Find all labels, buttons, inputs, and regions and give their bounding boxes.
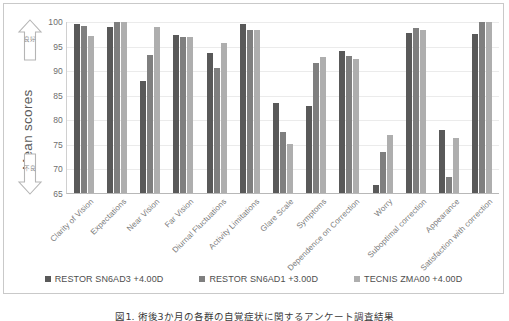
y-axis-tick-label: 75 xyxy=(53,140,63,150)
y-axis-tick-label: 65 xyxy=(53,189,63,199)
bar xyxy=(81,26,87,193)
bar-group xyxy=(300,22,333,193)
legend-swatch xyxy=(354,276,360,282)
y-axis-tick-label: 90 xyxy=(53,66,63,76)
bar-group-bars xyxy=(300,22,333,193)
figure-container: Mean scores 良好 不良 65707580859095100 Clar… xyxy=(0,0,509,321)
bar xyxy=(472,34,478,193)
x-axis-label-text: Satisfaction with correction xyxy=(419,197,495,273)
poor-arrow: 不良 xyxy=(17,152,43,196)
bar xyxy=(74,24,80,193)
bar xyxy=(339,51,345,193)
bar xyxy=(406,33,412,193)
bar xyxy=(413,28,419,193)
bar-group xyxy=(200,22,233,193)
bar xyxy=(240,24,246,193)
x-axis-label-text: Clarity of Vision xyxy=(48,197,95,244)
good-arrow: 良好 xyxy=(17,18,43,62)
figure-caption: 図1. 術後3か月の各群の自覚症状に関するアンケート調査結果 xyxy=(0,306,509,321)
x-axis-label-text: Suboptimal correction xyxy=(366,197,429,260)
x-axis-label-text: Glare Scale xyxy=(258,197,295,234)
y-axis-tick-label: 80 xyxy=(53,115,63,125)
y-axis-tick-label: 100 xyxy=(48,17,63,27)
arrow-down-icon xyxy=(17,152,43,196)
bar xyxy=(207,53,213,193)
bar-group-bars xyxy=(333,22,366,193)
bar-group-bars xyxy=(399,22,432,193)
good-arrow-label: 良好 xyxy=(17,36,43,43)
x-axis-label-text: Near Vision xyxy=(125,197,161,233)
bar xyxy=(221,43,227,193)
bar xyxy=(173,35,179,193)
legend-item[interactable]: RESTOR SN6AD3 +4.00D xyxy=(45,274,164,284)
legend-label: RESTOR SN6AD1 +3.00D xyxy=(209,274,318,284)
x-axis-label-text: Dependence on Correction xyxy=(286,197,362,273)
legend-label: RESTOR SN6AD3 +4.00D xyxy=(55,274,164,284)
bar-group-bars xyxy=(200,22,233,193)
bar xyxy=(420,30,426,193)
figure-caption-text: 図1. 術後3か月の各群の自覚症状に関するアンケート調査結果 xyxy=(115,311,393,321)
y-axis-tick-label: 95 xyxy=(53,42,63,52)
bar-group xyxy=(67,22,100,193)
bar-group xyxy=(333,22,366,193)
y-axis-tick-label: 85 xyxy=(53,91,63,101)
legend-label: TECNIS ZMA00 +4.00D xyxy=(364,274,462,284)
x-axis-labels: Clarity of VisionExpectationsNear Vision… xyxy=(66,195,499,275)
bar xyxy=(353,59,359,193)
x-axis-label-text: Worry xyxy=(373,197,395,219)
poor-arrow-label: 不良 xyxy=(17,165,43,172)
legend: RESTOR SN6AD3 +4.00DRESTOR SN6AD1 +3.00D… xyxy=(4,274,503,284)
bar xyxy=(107,27,113,193)
bar-group xyxy=(466,22,499,193)
bar xyxy=(88,36,94,193)
legend-swatch xyxy=(45,276,51,282)
legend-item[interactable]: TECNIS ZMA00 +4.00D xyxy=(354,274,462,284)
legend-item[interactable]: RESTOR SN6AD1 +3.00D xyxy=(199,274,318,284)
bar-group xyxy=(399,22,432,193)
x-axis-label-text: Far Vision xyxy=(162,197,194,229)
legend-swatch xyxy=(199,276,205,282)
bar-group-bars xyxy=(466,22,499,193)
y-axis-tick-label: 70 xyxy=(53,164,63,174)
bar-group-bars xyxy=(67,22,100,193)
x-axis-label-text: Symptoms xyxy=(295,197,329,231)
chart-frame: Mean scores 良好 不良 65707580859095100 Clar… xyxy=(3,3,504,294)
